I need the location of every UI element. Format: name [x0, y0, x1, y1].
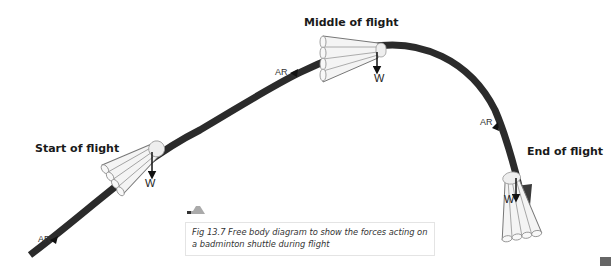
label-start-of-flight: Start of flight — [35, 142, 119, 155]
label-middle-of-flight: Middle of flight — [304, 16, 399, 29]
weight-label-start: W — [145, 177, 155, 189]
weight-label-end: W — [504, 193, 514, 205]
air-resistance-label-end: AR — [480, 117, 493, 127]
corner-mark — [600, 257, 611, 266]
weight-label-middle: W — [374, 72, 384, 84]
air-resistance-label-middle: AR — [275, 67, 288, 77]
figure-caption: Fig 13.7 Free body diagram to show the f… — [185, 222, 435, 256]
caption-line-2: a badminton shuttle during flight — [192, 238, 428, 250]
air-resistance-arrow-end — [492, 122, 499, 131]
caption-tab-icon — [187, 206, 205, 214]
caption-line-1: Fig 13.7 Free body diagram to show the f… — [192, 226, 428, 238]
air-resistance-label-start: AR — [38, 234, 51, 244]
label-end-of-flight: End of flight — [527, 145, 603, 158]
